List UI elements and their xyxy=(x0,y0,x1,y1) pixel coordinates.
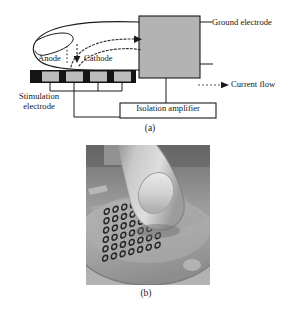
label-anode: Anode xyxy=(38,54,61,64)
label-ground-electrode: Ground electrode xyxy=(212,18,272,28)
figure-root: Ground electrode Current flow Anode Cath… xyxy=(0,0,299,309)
electrode-pad-3 xyxy=(90,72,107,82)
base-plate-notch-right xyxy=(183,259,201,271)
photo-drawing xyxy=(86,145,210,285)
caption-panel-a: (a) xyxy=(138,123,162,133)
electrode-pad-1 xyxy=(42,72,59,82)
label-stimulation-electrode-line1: Stimulation xyxy=(19,91,59,101)
label-current-flow: Current flow xyxy=(231,80,275,90)
current-flow-legend-arrowhead xyxy=(221,82,229,88)
ground-electrode-box xyxy=(139,16,200,78)
electrode-pad-2 xyxy=(66,72,83,82)
label-isolation-amplifier: Isolation amplifier xyxy=(120,104,216,114)
label-cathode: Cathode xyxy=(84,54,113,64)
panel-b-photograph xyxy=(86,145,210,285)
electrode-pad-4 xyxy=(114,72,131,82)
caption-panel-b: (b) xyxy=(134,288,158,298)
label-stimulation-electrode-line2: electrode xyxy=(23,101,55,111)
panel-a-schematic: Ground electrode Current flow Anode Cath… xyxy=(0,0,299,140)
label-stimulation-electrode: Stimulation electrode xyxy=(4,92,74,111)
finger-contact-shadow xyxy=(136,224,180,238)
